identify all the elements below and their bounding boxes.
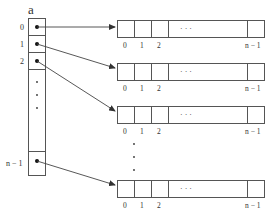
row-1-index-n-minus-1: n − 1 (245, 84, 261, 93)
row-n-minus-1-index-n-minus-1: n − 1 (245, 201, 261, 210)
row-0-index-2: 2 (157, 41, 161, 50)
row-1-ellipsis: · · · (180, 67, 192, 76)
row-0-index-0: 0 (123, 41, 127, 50)
row-n-minus-1-ellipsis: · · · (180, 184, 192, 193)
row-2-ellipsis: · · · (180, 110, 192, 119)
pointer-arrows (37, 27, 115, 185)
row-2-index-0: 0 (123, 127, 127, 136)
row-array-2: · · · 0 1 2 n − 1 (118, 107, 265, 137)
row-0-index-1: 1 (140, 41, 144, 50)
row-2-index-2: 2 (157, 127, 161, 136)
row-2-index-n-minus-1: n − 1 (245, 127, 261, 136)
row-1-index-1: 1 (140, 84, 144, 93)
left-index-2: 2 (20, 57, 24, 66)
left-index-0: 0 (20, 23, 24, 32)
row-n-minus-1-index-2: 2 (157, 201, 161, 210)
row-array-0: · · · 0 1 2 n − 1 (118, 21, 265, 51)
left-index-1: 1 (20, 40, 24, 49)
row-n-minus-1-index-0: 0 (123, 201, 127, 210)
rows-vertical-ellipsis (133, 143, 135, 171)
row-1-index-0: 0 (123, 84, 127, 93)
left-vertical-ellipsis (36, 81, 38, 109)
array-name-label: a (28, 2, 34, 17)
row-1-index-2: 2 (157, 84, 161, 93)
row-array-1: · · · 0 1 2 n − 1 (118, 64, 265, 94)
row-2-index-1: 1 (140, 127, 144, 136)
row-0-index-n-minus-1: n − 1 (245, 41, 261, 50)
row-array-n-minus-1: · · · 0 1 2 n − 1 (118, 181, 265, 211)
row-n-minus-1-index-1: 1 (140, 201, 144, 210)
pointer-dots (35, 25, 39, 163)
row-0-ellipsis: · · · (180, 24, 192, 33)
array-of-arrays-diagram: a 0 1 2 n − 1 (0, 0, 271, 216)
left-index-n-minus-1: n − 1 (6, 159, 23, 168)
